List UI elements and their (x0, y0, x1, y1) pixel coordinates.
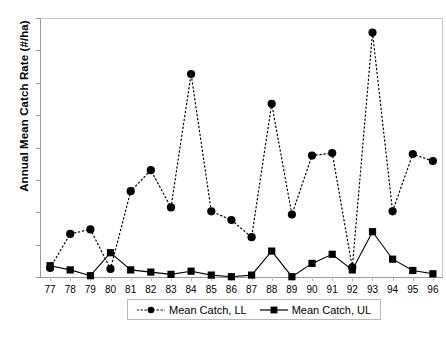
data-point-circle (348, 263, 356, 271)
data-point-circle (127, 187, 135, 195)
data-point-square (107, 249, 114, 256)
data-point-square (288, 273, 295, 280)
series-mean-catch-ll (46, 28, 437, 273)
next-chart-partial: 90 (0, 327, 446, 345)
data-point-circle (248, 233, 256, 241)
data-point-circle (147, 166, 155, 174)
legend-key-ll-icon (137, 304, 165, 316)
data-point-circle (409, 150, 417, 158)
data-point-circle (187, 70, 195, 78)
data-point-circle (167, 203, 175, 211)
data-point-square (228, 273, 235, 280)
data-point-square (409, 267, 416, 274)
data-point-circle (207, 207, 215, 215)
series-layer (0, 0, 446, 325)
data-point-circle (106, 265, 114, 273)
data-point-square (248, 272, 255, 279)
data-point-square (167, 271, 174, 278)
data-point-square (389, 256, 396, 263)
data-point-circle (308, 152, 316, 160)
data-point-circle (268, 100, 276, 108)
data-point-circle (46, 264, 54, 272)
legend-item-mean-catch-ul: Mean Catch, UL (260, 304, 371, 316)
data-point-circle (389, 207, 397, 215)
data-point-circle (86, 225, 94, 233)
data-point-circle (429, 157, 437, 165)
data-point-square (329, 251, 336, 258)
legend-label-ul: Mean Catch, UL (292, 304, 371, 316)
data-point-square (369, 228, 376, 235)
data-point-square (67, 266, 74, 273)
data-point-square (429, 270, 436, 277)
legend-item-mean-catch-ll: Mean Catch, LL (137, 304, 247, 316)
chart-legend: Mean Catch, LL Mean Catch, UL (127, 299, 381, 320)
series-mean-catch-ul (47, 228, 437, 280)
data-point-circle (328, 149, 336, 157)
annual-mean-catch-rate-chart: Annual Mean Catch Rate (#/ha) 0100200300… (0, 0, 446, 325)
data-point-circle (227, 216, 235, 224)
data-point-square (188, 268, 195, 275)
data-point-square (147, 269, 154, 276)
data-point-square (87, 272, 94, 279)
legend-label-ll: Mean Catch, LL (169, 304, 247, 316)
data-point-circle (66, 230, 74, 238)
data-point-circle (368, 28, 376, 36)
data-point-circle (288, 210, 296, 218)
chart-page: Annual Mean Catch Rate (#/ha) 0100200300… (0, 0, 446, 345)
data-point-square (308, 260, 315, 267)
data-point-square (127, 266, 134, 273)
data-point-square (208, 272, 215, 279)
legend-key-ul-icon (260, 304, 288, 316)
data-point-square (268, 248, 275, 255)
